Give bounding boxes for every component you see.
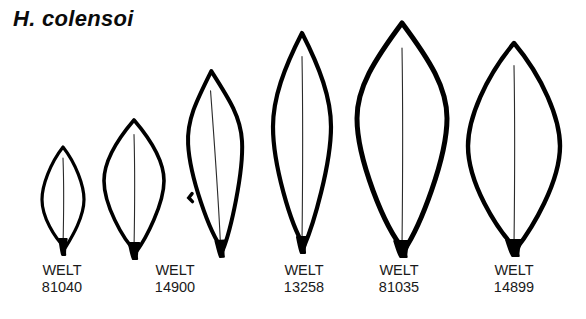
institution-code: WELT	[42, 262, 82, 279]
leaf-outlines-group	[42, 23, 560, 259]
leaf-midrib	[514, 66, 515, 247]
leaf-midrib	[134, 135, 135, 250]
leaf-midrib	[63, 158, 64, 246]
leaf-plate-figure: H. colensoi WELT81040WELT14900WELT13258W…	[0, 0, 586, 319]
institution-code: WELT	[379, 262, 419, 279]
leaf-petiole	[59, 239, 66, 255]
leaf-petiole	[506, 240, 522, 256]
institution-code: WELT	[155, 262, 195, 279]
specimen-label-14899: WELT14899	[494, 262, 534, 296]
institution-code: WELT	[284, 262, 324, 279]
accession-number: 81040	[42, 279, 82, 296]
leaf-specimen-5	[357, 23, 447, 257]
leaf-specimen-1	[42, 147, 84, 255]
specimen-label-81035: WELT81035	[379, 262, 419, 296]
leaf-petiole	[216, 241, 226, 257]
leaf-petiole	[297, 237, 307, 253]
specimen-label-81040: WELT81040	[42, 262, 82, 296]
accession-number: 14900	[155, 279, 195, 296]
specimen-label-14900: WELT14900	[155, 262, 195, 296]
leaf-petiole	[129, 243, 139, 259]
leaf-margin-notch	[189, 194, 193, 202]
accession-number: 13258	[284, 279, 324, 296]
leaf-midrib	[402, 48, 403, 248]
institution-code: WELT	[494, 262, 534, 279]
leaf-midrib	[302, 56, 303, 244]
accession-number: 81035	[379, 279, 419, 296]
accession-number: 14899	[494, 279, 534, 296]
leaf-specimen-3	[182, 70, 248, 259]
leaf-specimen-2	[104, 120, 164, 259]
leaf-petiole	[394, 241, 409, 257]
specimen-label-13258: WELT13258	[284, 262, 324, 296]
leaf-specimen-4	[273, 33, 331, 253]
leaf-specimen-6	[468, 43, 560, 256]
